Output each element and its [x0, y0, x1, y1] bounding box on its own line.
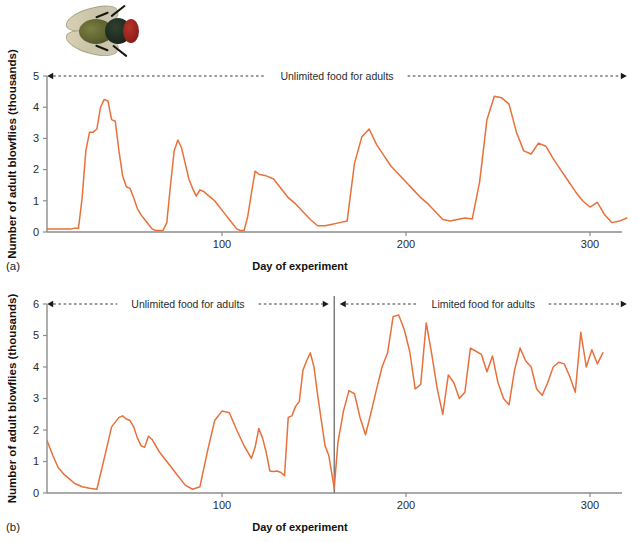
food-regime-label: Unlimited food for adults — [280, 70, 393, 82]
arrow-right-icon — [621, 301, 627, 307]
y-tick-label: 0 — [33, 487, 39, 499]
y-tick-label: 2 — [33, 424, 39, 436]
panel-b-plot: Unlimited food for adultsLimited food fo… — [0, 275, 638, 542]
food-regime-annotation: Unlimited food for adults — [47, 298, 329, 310]
y-tick-label: 3 — [33, 392, 39, 404]
arrow-left-icon — [47, 73, 53, 79]
food-regime-annotation: Limited food for adults — [340, 298, 627, 310]
panel-a-plot: Unlimited food for adults012345100200300… — [0, 0, 638, 275]
x-tick-label: 100 — [213, 238, 231, 250]
x-axis-title: Day of experiment — [252, 260, 348, 272]
x-tick-label: 300 — [581, 238, 599, 250]
y-tick-label: 2 — [33, 163, 39, 175]
panel-letter: (b) — [6, 521, 20, 533]
x-tick-label: 300 — [581, 499, 599, 511]
blowfly-population-figure: Unlimited food for adults012345100200300… — [0, 0, 638, 542]
x-axis-title: Day of experiment — [252, 521, 348, 533]
y-tick-label: 3 — [33, 132, 39, 144]
y-tick-label: 0 — [33, 226, 39, 238]
y-tick-label: 1 — [33, 195, 39, 207]
y-tick-label: 5 — [33, 70, 39, 82]
arrow-left-icon — [340, 301, 346, 307]
arrow-right-icon — [323, 301, 329, 307]
x-tick-label: 200 — [397, 238, 415, 250]
panel-b: Unlimited food for adultsLimited food fo… — [0, 275, 638, 542]
arrow-right-icon — [621, 73, 627, 79]
data-series-line — [47, 96, 627, 230]
y-tick-label: 4 — [33, 101, 39, 113]
panel-a: Unlimited food for adults012345100200300… — [0, 0, 638, 275]
y-tick-label: 5 — [33, 329, 39, 341]
food-regime-annotation: Unlimited food for adults — [47, 70, 627, 82]
data-series-line — [47, 315, 603, 489]
food-regime-label: Unlimited food for adults — [131, 298, 244, 310]
y-axis-title: Number of adult blowflies (thousands) — [6, 49, 18, 259]
y-tick-label: 1 — [33, 455, 39, 467]
y-tick-label: 4 — [33, 361, 39, 373]
y-tick-label: 6 — [33, 298, 39, 310]
x-tick-label: 100 — [213, 499, 231, 511]
arrow-left-icon — [47, 301, 53, 307]
panel-letter: (a) — [6, 260, 20, 272]
x-tick-label: 200 — [397, 499, 415, 511]
food-regime-label: Limited food for adults — [432, 298, 535, 310]
y-axis-title: Number of adult blowflies (thousands) — [6, 294, 18, 504]
